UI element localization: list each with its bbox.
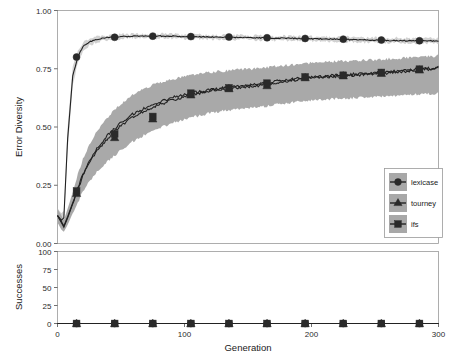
marker-lexicase — [187, 33, 194, 40]
marker-lexicase — [378, 37, 385, 44]
marker-ifs — [149, 320, 156, 327]
x-axis-title-generation: Generation — [224, 342, 271, 353]
marker-ifs — [264, 320, 271, 327]
marker-ifs — [378, 320, 385, 327]
marker-ifs — [416, 320, 423, 327]
marker-ifs — [340, 72, 347, 79]
y-tick-label: 100 — [38, 248, 52, 257]
marker-ifs — [187, 90, 194, 97]
marker-lexicase — [340, 36, 347, 43]
marker-ifs — [340, 320, 347, 327]
y-tick-label: 25 — [43, 302, 52, 311]
marker-ifs — [226, 84, 233, 91]
y-tick-label: 0.50 — [36, 123, 52, 132]
marker-ifs — [264, 80, 271, 87]
marker-lexicase — [416, 37, 423, 44]
legend-label-ifs: ifs — [411, 220, 419, 229]
marker-ifs — [416, 66, 423, 73]
chart-legend[interactable]: lexicase tourney ifs — [385, 169, 443, 238]
x-tick-label: 300 — [432, 330, 446, 339]
y-tick-label: 1.00 — [36, 7, 52, 16]
marker-ifs — [149, 113, 156, 120]
y-axis-title-successes: Successes — [13, 264, 24, 310]
marker-ifs — [302, 320, 309, 327]
x-tick-label: 200 — [305, 330, 319, 339]
marker-ifs — [226, 320, 233, 327]
x-tick-label: 0 — [55, 330, 60, 339]
y-tick-label: 0.75 — [36, 65, 52, 74]
marker-lexicase — [73, 54, 80, 61]
legend-label-lexicase: lexicase — [411, 178, 438, 187]
x-tick-label: 100 — [178, 330, 192, 339]
error-diversity-successes-chart: 0.000.250.500.751.00 Error Diversity 025… — [0, 0, 458, 359]
marker-ifs — [111, 320, 118, 327]
chart-figure: 0.000.250.500.751.00 Error Diversity 025… — [0, 0, 458, 359]
y-tick-label: 75 — [43, 266, 52, 275]
marker-lexicase — [302, 35, 309, 42]
y-tick-label: 50 — [43, 284, 52, 293]
legend-label-tourney: tourney — [411, 199, 436, 208]
marker-ifs — [187, 320, 194, 327]
y-axis-title-error-diversity: Error Diversity — [13, 97, 24, 157]
marker-lexicase — [225, 34, 232, 41]
marker-lexicase — [264, 34, 271, 41]
marker-ifs — [302, 74, 309, 81]
marker-lexicase — [111, 34, 118, 41]
y-tick-label: 0.25 — [36, 181, 52, 190]
y-tick-label: 0 — [47, 320, 52, 329]
marker-ifs — [378, 69, 385, 76]
marker-lexicase — [149, 33, 156, 40]
marker-ifs — [111, 131, 118, 138]
marker-ifs — [73, 320, 80, 327]
marker-ifs — [73, 188, 80, 195]
